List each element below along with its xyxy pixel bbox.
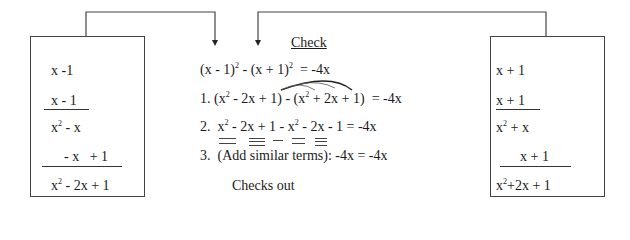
term-rest: - x bbox=[62, 120, 81, 135]
left-product: x2 - 2x + 1 bbox=[51, 179, 110, 193]
left-partial-1: x2 - x bbox=[51, 121, 81, 135]
right-rule-1 bbox=[496, 109, 540, 110]
left-multiplicand: x -1 bbox=[51, 64, 73, 78]
term-rest: + x bbox=[507, 120, 529, 135]
left-partial-2: - x + 1 bbox=[64, 150, 108, 164]
like-term-mark-x2 bbox=[219, 138, 236, 144]
left-rule-1 bbox=[44, 109, 89, 110]
like-term-mark-2xb bbox=[315, 138, 327, 146]
term: (x bbox=[214, 91, 226, 106]
term: + 2x + 1) = -4x bbox=[309, 91, 402, 106]
right-multiplicand: x + 1 bbox=[496, 64, 525, 78]
term: (x - 1) bbox=[200, 62, 235, 77]
term: x bbox=[51, 120, 58, 135]
right-rule-2 bbox=[500, 166, 571, 167]
right-partial-1: x2 + x bbox=[496, 121, 529, 135]
term-rest: - 2x + 1 bbox=[62, 178, 110, 193]
check-conclusion: Checks out bbox=[232, 179, 295, 193]
right-multiplier: x + 1 bbox=[496, 94, 525, 108]
right-partial-2: x + 1 bbox=[520, 150, 549, 164]
like-term-mark-1 bbox=[273, 140, 283, 141]
left-rule-2 bbox=[42, 166, 122, 167]
term-rest: +2x + 1 bbox=[507, 178, 551, 193]
term: x bbox=[496, 178, 503, 193]
term: x bbox=[496, 120, 503, 135]
check-step-1: 1. (x2 - 2x + 1) - (x2 + 2x + 1) = -4x bbox=[200, 92, 402, 106]
term: = -4x bbox=[293, 62, 330, 77]
right-multiplication-box bbox=[490, 36, 605, 197]
term: - 2x - 1 = -4x bbox=[299, 119, 377, 134]
step-number: 2. bbox=[200, 119, 211, 134]
right-product: x2+2x + 1 bbox=[496, 179, 551, 193]
term: - 2x + 1 - x bbox=[229, 119, 295, 134]
like-term-mark-2x bbox=[249, 138, 265, 146]
term: x bbox=[218, 119, 225, 134]
step-text: (Add similar terms): -4x = -4x bbox=[218, 148, 388, 163]
check-step-3: 3. (Add similar terms): -4x = -4x bbox=[200, 149, 388, 163]
term: - (x + 1) bbox=[239, 62, 289, 77]
like-term-mark-x2b bbox=[292, 138, 305, 144]
term: - 2x + 1) - (x bbox=[230, 91, 306, 106]
check-equation: (x - 1)2 - (x + 1)2 = -4x bbox=[200, 63, 330, 77]
step-number: 3. bbox=[200, 148, 211, 163]
check-step-2: 2. x2 - 2x + 1 - x2 - 2x - 1 = -4x bbox=[200, 120, 377, 134]
step-number: 1. bbox=[200, 91, 211, 106]
term: x bbox=[51, 178, 58, 193]
left-multiplier: x - 1 bbox=[51, 94, 77, 108]
left-multiplication-box bbox=[30, 36, 145, 197]
check-title: Check bbox=[291, 36, 327, 50]
